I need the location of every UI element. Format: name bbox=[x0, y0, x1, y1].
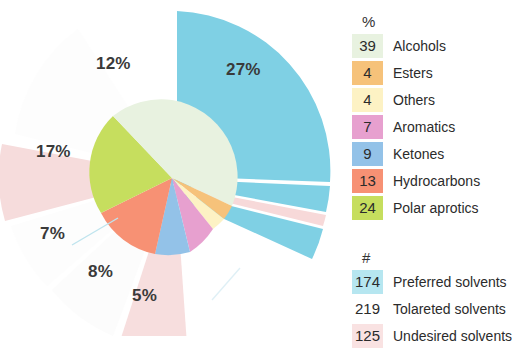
percent-swatch: 4 bbox=[352, 88, 383, 112]
percent-label: Alcohols bbox=[393, 38, 446, 54]
legend-row[interactable]: 39Alcohols bbox=[352, 32, 520, 59]
count-swatch: 174 bbox=[352, 270, 383, 294]
percent-label: Aromatics bbox=[393, 119, 455, 135]
percent-swatch: 7 bbox=[352, 115, 383, 139]
legend-percent-group: % 39Alcohols4Esters4Others7Aromatics9Ket… bbox=[352, 12, 520, 221]
percent-label: Ketones bbox=[393, 146, 444, 162]
count-swatch: 219 bbox=[352, 297, 383, 321]
percent-swatch: 24 bbox=[352, 196, 383, 220]
legend-row[interactable]: 13Hydrocarbons bbox=[352, 167, 520, 194]
leader-line-8 bbox=[212, 268, 240, 300]
pie-chart-area: 27% 12% 17% 7% 8% 5% bbox=[0, 0, 348, 336]
legend-count-group: # 174Preferred solvents219Tolareted solv… bbox=[352, 248, 520, 349]
legend-row[interactable]: 24Polar aprotics bbox=[352, 194, 520, 221]
legend-row[interactable]: 174Preferred solvents bbox=[352, 268, 520, 295]
pct-label-17: 17% bbox=[36, 142, 71, 162]
percent-swatch: 13 bbox=[352, 169, 383, 193]
inner-pie bbox=[89, 99, 237, 255]
count-label: Preferred solvents bbox=[393, 274, 507, 290]
percent-label: Others bbox=[393, 92, 435, 108]
pct-label-12: 12% bbox=[96, 54, 131, 74]
legend: % 39Alcohols4Esters4Others7Aromatics9Ket… bbox=[352, 0, 520, 336]
legend-count-rows: 174Preferred solvents219Tolareted solven… bbox=[352, 268, 520, 349]
legend-row[interactable]: 7Aromatics bbox=[352, 113, 520, 140]
pct-label-27: 27% bbox=[226, 60, 261, 80]
percent-swatch: 9 bbox=[352, 142, 383, 166]
count-label: Undesired solvents bbox=[393, 328, 512, 344]
legend-row[interactable]: 4Others bbox=[352, 86, 520, 113]
percent-swatch: 39 bbox=[352, 34, 383, 58]
legend-count-header: # bbox=[362, 248, 520, 268]
percent-label: Esters bbox=[393, 65, 433, 81]
percent-swatch: 4 bbox=[352, 61, 383, 85]
legend-percent-rows: 39Alcohols4Esters4Others7Aromatics9Keton… bbox=[352, 32, 520, 221]
count-swatch: 125 bbox=[352, 324, 383, 348]
legend-row[interactable]: 9Ketones bbox=[352, 140, 520, 167]
count-label: Tolareted solvents bbox=[393, 301, 506, 317]
legend-percent-header: % bbox=[362, 12, 520, 32]
nested-pie-chart bbox=[0, 0, 348, 336]
pct-label-8: 8% bbox=[88, 262, 113, 282]
percent-label: Hydrocarbons bbox=[393, 173, 480, 189]
legend-row[interactable]: 219Tolareted solvents bbox=[352, 295, 520, 322]
pct-label-5: 5% bbox=[132, 286, 157, 306]
percent-label: Polar aprotics bbox=[393, 200, 479, 216]
legend-row[interactable]: 125Undesired solvents bbox=[352, 322, 520, 349]
legend-row[interactable]: 4Esters bbox=[352, 59, 520, 86]
pct-label-7: 7% bbox=[40, 224, 65, 244]
